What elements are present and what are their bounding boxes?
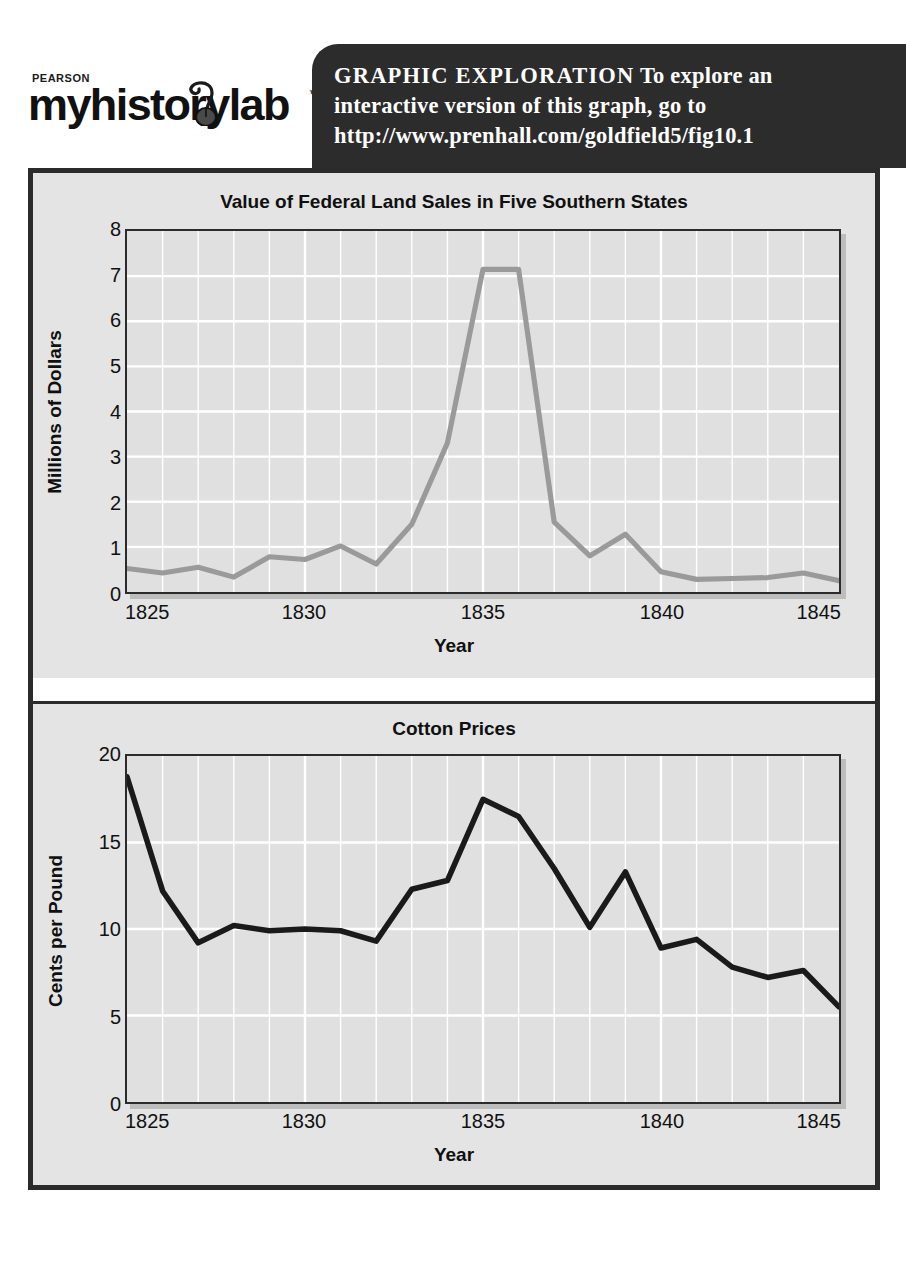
x-axis-label-cotton-prices: Year (33, 1144, 875, 1166)
banner-url[interactable]: http://www.prenhall.com/goldfield5/fig10… (334, 123, 754, 148)
y-tick-label: 5 (81, 1005, 121, 1028)
chart-title-cotton-prices: Cotton Prices (33, 718, 875, 740)
x-axis-ticks-land-sales: 18251830183518401845 (125, 601, 841, 627)
plot-area-cotton-prices (125, 754, 841, 1104)
y-axis-label-land-sales: Millions of Dollars (44, 312, 66, 512)
x-tick-label: 1840 (640, 601, 685, 624)
land-sales-line-chart (127, 231, 839, 592)
banner-line1-rest: To explore an (640, 63, 773, 88)
x-axis-ticks-cotton-prices: 18251830183518401845 (125, 1110, 841, 1136)
x-tick-label: 1845 (797, 1110, 842, 1133)
myhistorylab-logo: PEARSON myhistorylab ™ (28, 72, 328, 142)
plot-frame-land-sales (125, 229, 841, 594)
x-tick-label: 1830 (282, 1110, 327, 1133)
y-tick-label: 15 (81, 830, 121, 853)
y-axis-label-cotton-prices: Cents per Pound (45, 826, 67, 1036)
y-tick-label: 2 (81, 491, 121, 514)
y-tick-label: 6 (81, 309, 121, 332)
x-tick-label: 1825 (125, 601, 170, 624)
myhistorylab-banner: PEARSON myhistorylab ™ GRAPHIC EXPLORATI… (0, 0, 906, 168)
x-tick-label: 1845 (797, 601, 842, 624)
y-tick-label: 7 (81, 263, 121, 286)
x-tick-label: 1835 (461, 601, 506, 624)
plot-frame-cotton-prices (125, 754, 841, 1104)
x-axis-label-land-sales: Year (33, 635, 875, 657)
y-tick-label: 8 (81, 218, 121, 241)
y-tick-label: 0 (81, 583, 121, 606)
y-tick-label: 4 (81, 400, 121, 423)
myhistorylab-wordmark: myhistorylab (28, 81, 289, 129)
y-tick-label: 1 (81, 537, 121, 560)
y-tick-label: 5 (81, 354, 121, 377)
figure-page: PEARSON myhistorylab ™ GRAPHIC EXPLORATI… (0, 0, 906, 1266)
banner-callout-box: GRAPHIC EXPLORATION To explore an intera… (312, 44, 906, 168)
cotton-prices-line-chart (127, 756, 839, 1102)
figure-frame: Value of Federal Land Sales in Five Sout… (28, 168, 880, 1190)
y-tick-label: 10 (81, 918, 121, 941)
chart-panel-cotton-prices: Cotton Prices Cents per Pound 05101520 1… (33, 704, 875, 1179)
banner-callout-text: GRAPHIC EXPLORATION To explore an intera… (334, 61, 894, 151)
chart-title-land-sales: Value of Federal Land Sales in Five Sout… (33, 191, 875, 213)
x-tick-label: 1830 (282, 601, 327, 624)
y-tick-label: 0 (81, 1093, 121, 1116)
x-tick-label: 1835 (461, 1110, 506, 1133)
banner-heading: GRAPHIC EXPLORATION (334, 63, 635, 88)
x-tick-label: 1840 (640, 1110, 685, 1133)
y-tick-label: 20 (81, 743, 121, 766)
y-axis-ticks-land-sales: 012345678 (77, 229, 121, 594)
y-tick-label: 3 (81, 446, 121, 469)
panel-divider (33, 678, 875, 704)
chart-panel-land-sales: Value of Federal Land Sales in Five Sout… (33, 173, 875, 678)
banner-line2: interactive version of this graph, go to (334, 93, 706, 118)
plot-area-land-sales (125, 229, 841, 594)
y-axis-ticks-cotton-prices: 05101520 (77, 754, 121, 1104)
x-tick-label: 1825 (125, 1110, 170, 1133)
